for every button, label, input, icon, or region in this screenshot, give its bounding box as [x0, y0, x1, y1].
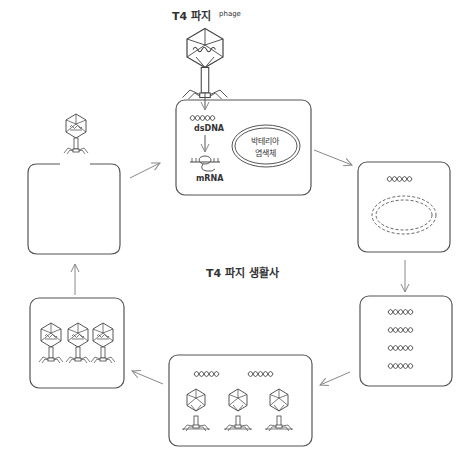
top-phage-sublabel: phage — [219, 10, 241, 18]
phage-tail-icon — [224, 416, 252, 431]
diagram-title: T4 파지 생활사 — [206, 264, 279, 280]
phage-tail-icon — [265, 416, 293, 431]
dsdna-icon — [194, 372, 219, 377]
released-phage-icon — [64, 114, 88, 154]
top-phage-label: T4 파지 — [172, 7, 211, 23]
dsdna-label: dsDNA — [194, 124, 224, 133]
dsdna-icon — [388, 364, 413, 369]
stage-lysis-box — [28, 164, 120, 254]
mrna-label: mRNA — [196, 174, 223, 183]
bacterial-chromosome-icon — [232, 125, 300, 167]
ribosome-mrna-icon — [190, 156, 220, 171]
dsdna-icon — [388, 310, 413, 315]
lifecycle-diagram — [0, 0, 476, 472]
phage-head-icon — [187, 389, 205, 411]
dsdna-icon — [387, 177, 412, 182]
phage-icon — [91, 323, 115, 363]
phage-tail-icon — [182, 416, 210, 431]
phage-head-icon — [229, 389, 247, 411]
chromosome-label-line1: 박테리아 — [251, 135, 279, 146]
phage-icon — [39, 323, 63, 363]
degraded-chromosome-icon — [372, 196, 436, 234]
dsdna-icon — [388, 346, 413, 351]
dsdna-icon — [248, 372, 273, 377]
dsdna-icon — [388, 328, 413, 333]
phage-head-icon — [270, 389, 288, 411]
stage-chromosome-degraded-box — [358, 162, 450, 252]
infecting-phage-icon — [183, 29, 228, 100]
dsdna-icon — [190, 116, 215, 121]
chromosome-label-line2: 염색체 — [255, 147, 276, 158]
phage-icon — [66, 323, 90, 363]
